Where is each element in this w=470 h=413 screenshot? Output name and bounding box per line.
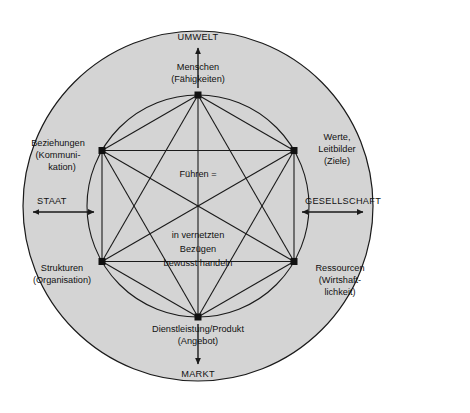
leadership-network-diagram: UMWELT MARKT STAAT GESELLSCHAFT Menschen… (0, 0, 470, 413)
label-ressourcen-line-3: lichkeit) (324, 287, 355, 297)
label-ressourcen-line-1: Ressourcen (315, 263, 364, 273)
node-dot-menschen (195, 92, 202, 99)
label-beziehungen-line-1: Beziehungen (31, 138, 85, 148)
label-strukturen-line-2: (Organisation) (33, 275, 91, 285)
node-dot-beziehungen (99, 147, 106, 154)
label-beziehungen-line-2: (Kommuni- (36, 150, 81, 160)
label-umwelt: UMWELT (178, 32, 219, 42)
center-caption-line-3: bewusst handeln (164, 258, 233, 268)
label-menschen-line-1: Menschen (177, 62, 219, 72)
label-gesellschaft: GESELLSCHAFT (305, 196, 381, 206)
label-strukturen-line-1: Strukturen (41, 263, 83, 273)
center-caption-line-2: Bezügen (180, 244, 216, 254)
label-beziehungen-line-3: kation) (48, 162, 76, 172)
center-heading: Führen = (179, 169, 216, 179)
node-dot-dienstleistung (195, 314, 202, 321)
label-markt: MARKT (181, 369, 215, 379)
label-dienstleistung-line-2: (Angebot) (178, 336, 218, 346)
label-werte-line-1: Werte, (324, 132, 351, 142)
label-dienstleistung-line-1: Dienstleistung/Produkt (152, 324, 244, 334)
node-dot-strukturen (99, 258, 106, 265)
label-staat: STAAT (37, 196, 67, 206)
label-menschen-line-2: (Fähigkeiten) (171, 74, 225, 84)
label-ressourcen-line-2: (Wirtshaft- (319, 275, 361, 285)
label-werte-line-3: (Ziele) (324, 156, 350, 166)
node-dot-ressourcen (291, 258, 298, 265)
center-caption-line-1: in vernetzten (172, 230, 225, 240)
label-werte-line-2: Leitbilder (318, 144, 355, 154)
node-dot-werte (291, 147, 298, 154)
